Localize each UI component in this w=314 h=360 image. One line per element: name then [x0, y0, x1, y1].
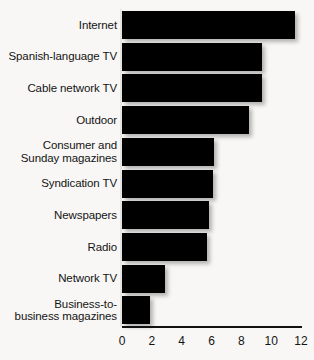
bar-row: Internet — [0, 9, 314, 41]
x-tick-label: 12 — [289, 334, 313, 348]
category-label: Internet — [0, 9, 117, 41]
bar-row: Cable network TV — [0, 72, 314, 104]
category-label: Radio — [0, 231, 117, 263]
bar — [122, 233, 207, 261]
category-label: Network TV — [0, 263, 117, 295]
category-label: Outdoor — [0, 104, 117, 136]
x-tick-label: 4 — [170, 334, 194, 348]
bar — [122, 43, 262, 71]
value-axis-line — [122, 326, 302, 328]
x-tick-label: 10 — [259, 334, 283, 348]
bar — [122, 106, 249, 134]
bar-row: Radio — [0, 231, 314, 263]
bar-row: Network TV — [0, 263, 314, 295]
bar-row: Syndication TV — [0, 168, 314, 200]
bar — [122, 265, 165, 293]
bar-chart: InternetSpanish-language TVCable network… — [0, 0, 314, 360]
category-label: Consumer and Sunday magazines — [0, 136, 117, 168]
category-label: Spanish-language TV — [0, 41, 117, 73]
category-label: Business-to- business magazines — [0, 294, 117, 326]
bar — [122, 296, 150, 324]
bar — [122, 170, 213, 198]
x-tick-label: 8 — [229, 334, 253, 348]
bar-row: Newspapers — [0, 199, 314, 231]
bar — [122, 201, 209, 229]
x-tick-label: 0 — [110, 334, 134, 348]
category-label: Newspapers — [0, 199, 117, 231]
bar-row: Consumer and Sunday magazines — [0, 136, 314, 168]
category-label: Cable network TV — [0, 72, 117, 104]
bar — [122, 138, 214, 166]
bar-row: Outdoor — [0, 104, 314, 136]
x-tick-label: 6 — [200, 334, 224, 348]
bar-row: Business-to- business magazines — [0, 294, 314, 326]
bar-row: Spanish-language TV — [0, 41, 314, 73]
bar — [122, 11, 295, 39]
bar — [122, 74, 262, 102]
category-label: Syndication TV — [0, 168, 117, 200]
x-tick-label: 2 — [140, 334, 164, 348]
plot-area: InternetSpanish-language TVCable network… — [0, 0, 314, 360]
